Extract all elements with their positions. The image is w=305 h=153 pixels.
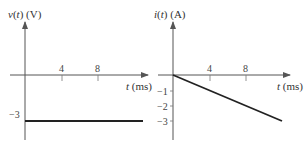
y-axis-label: v(t) (V) bbox=[8, 8, 42, 21]
x-tick-label: 4 bbox=[59, 63, 64, 74]
x-tick-label: 8 bbox=[243, 63, 248, 74]
y-tick-label: −3 bbox=[157, 116, 168, 127]
voltage-chart: v(t) (V) t (ms) 4 8 −3 bbox=[8, 8, 152, 140]
x-tick-label: 4 bbox=[207, 63, 212, 74]
y-tick-label: −2 bbox=[157, 101, 168, 112]
y-tick-label: −1 bbox=[157, 86, 168, 97]
figure: v(t) (V) t (ms) 4 8 −3 i(t) (A) t (ms) 4… bbox=[0, 0, 305, 153]
y-tick-label: −3 bbox=[9, 109, 20, 120]
x-axis-label: t (ms) bbox=[277, 80, 303, 93]
y-axis-label: i(t) (A) bbox=[154, 8, 186, 21]
x-axis-label: t (ms) bbox=[126, 80, 152, 93]
current-line bbox=[173, 75, 282, 121]
x-tick-label: 8 bbox=[95, 63, 100, 74]
current-chart: i(t) (A) t (ms) 4 8 −1 −2 −3 bbox=[154, 8, 303, 140]
